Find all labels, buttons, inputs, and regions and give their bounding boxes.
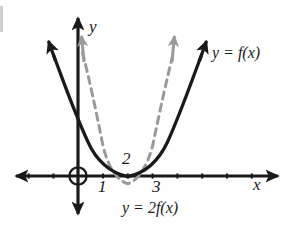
x-axis-label: x — [253, 176, 261, 193]
curve-label-2fx: y = 2f(x) — [122, 200, 178, 216]
curve-label-fx: y = f(x) — [212, 45, 260, 61]
curve-fx-right-arrow — [199, 41, 206, 61]
curve-fx-left-arrow — [49, 41, 56, 61]
x-tick-label-1: 1 — [98, 178, 107, 195]
curve-2fx-right-arrow — [172, 36, 174, 62]
x-tick-label-3: 3 — [152, 178, 161, 195]
curve-2fx-left-arrow — [82, 36, 84, 62]
graph-figure: 1 2 3 x y y = f(x) y = 2f(x) — [0, 0, 292, 234]
y-axis-label: y — [89, 18, 97, 35]
x-tick-label-2: 2 — [122, 150, 131, 167]
x-axis — [16, 173, 278, 178]
